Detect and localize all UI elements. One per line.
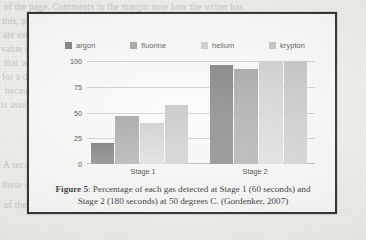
- figure-caption-text: : Percentage of each gas detected at Sta…: [78, 184, 311, 206]
- bar-group-stage-2: [200, 61, 311, 164]
- figure-box: argon fluorine helium krypton 100 75: [27, 12, 337, 214]
- legend-swatch-helium: [201, 42, 208, 49]
- bar-stage2-krypton: [284, 61, 308, 164]
- bar-stage1-fluorine: [115, 116, 139, 164]
- x-label-stage-2: Stage 2: [199, 167, 311, 176]
- figure-caption: Figure 5: Percentage of each gas detecte…: [45, 184, 321, 207]
- bar-group-stage-1: [87, 61, 200, 164]
- legend-item-helium: helium: [201, 41, 234, 50]
- figure-caption-label: Figure 5: [56, 184, 88, 194]
- legend-label-krypton: krypton: [280, 41, 305, 50]
- bar-groups: [87, 61, 311, 164]
- bar-stage2-helium: [259, 61, 283, 164]
- chart-legend: argon fluorine helium krypton: [65, 41, 305, 50]
- plot-area: 100 75 50 25 0: [87, 61, 311, 164]
- legend-swatch-fluorine: [130, 42, 137, 49]
- y-tick-label: 100: [60, 57, 82, 66]
- legend-label-helium: helium: [212, 41, 234, 50]
- legend-label-fluorine: fluorine: [141, 41, 166, 50]
- bar-stage1-argon: [91, 143, 115, 164]
- bg-text-line: of the page. Comments in the margin note…: [4, 2, 366, 12]
- y-tick-label: 25: [60, 134, 82, 143]
- x-label-stage-1: Stage 1: [87, 167, 199, 176]
- legend-swatch-krypton: [269, 42, 276, 49]
- bar-stage1-helium: [140, 123, 164, 164]
- bar-stage2-argon: [210, 65, 234, 164]
- bar-chart: argon fluorine helium krypton 100 75: [29, 14, 335, 174]
- y-tick-label: 75: [60, 82, 82, 91]
- legend-item-krypton: krypton: [269, 41, 305, 50]
- x-axis-labels: Stage 1 Stage 2: [87, 167, 311, 176]
- legend-label-argon: argon: [76, 41, 95, 50]
- legend-swatch-argon: [65, 42, 72, 49]
- y-tick-label: 50: [60, 108, 82, 117]
- legend-item-argon: argon: [65, 41, 95, 50]
- legend-item-fluorine: fluorine: [130, 41, 166, 50]
- y-tick-label: 0: [60, 160, 82, 169]
- bar-stage2-fluorine: [234, 69, 258, 164]
- bar-stage1-krypton: [165, 105, 189, 164]
